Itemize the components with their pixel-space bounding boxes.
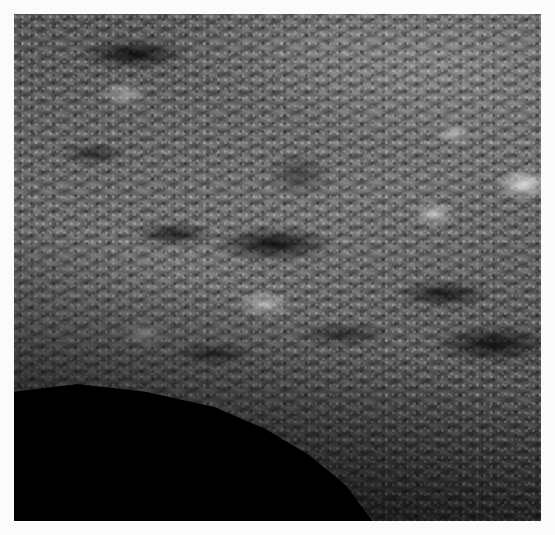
planetary-surface-image xyxy=(14,14,541,521)
